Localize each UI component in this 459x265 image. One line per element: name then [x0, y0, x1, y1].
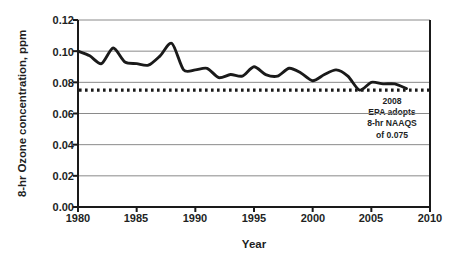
ozone-data-line — [78, 43, 407, 90]
plot-area — [0, 0, 459, 265]
ozone-trend-chart: 8-hr Ozone concentration, ppm 0.12 0.10 … — [0, 0, 459, 265]
axis-ticks — [73, 20, 430, 212]
gridlines — [78, 20, 430, 176]
